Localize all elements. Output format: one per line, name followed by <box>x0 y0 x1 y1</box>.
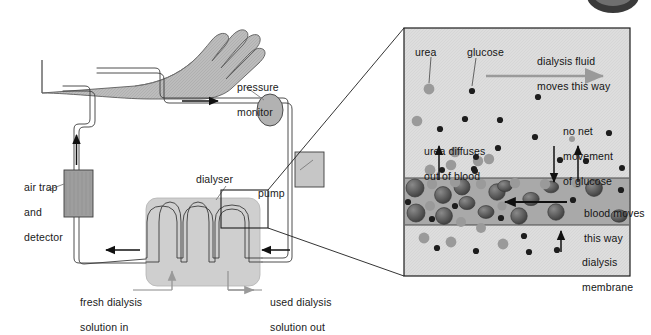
pressure-monitor-label: pressure monitor <box>225 68 279 131</box>
glucose-label: glucose <box>467 46 504 59</box>
no-net-movement-label: no net movement of glucose <box>551 112 613 200</box>
air-trap-label: air trap and detector <box>12 168 63 256</box>
dialyser-label: dialyser <box>196 173 233 186</box>
fresh-solution-label: fresh dialysis solution in <box>68 283 142 335</box>
dialysis-fluid-flow-label: dialysis fluid moves this way <box>525 42 610 105</box>
urea-label: urea <box>415 46 436 59</box>
dialyser-body <box>146 198 260 286</box>
dialysis-membrane-label: dialysis membrane <box>570 243 633 306</box>
pump-component[interactable] <box>295 152 324 187</box>
pump-label: pump <box>258 187 285 200</box>
urea-diffuses-label: urea diffuses out of blood <box>412 132 485 195</box>
used-solution-label: used dialysis solution out <box>258 283 332 335</box>
page-corner-mark <box>587 0 639 13</box>
air-trap-and-detector-component[interactable] <box>64 170 93 217</box>
